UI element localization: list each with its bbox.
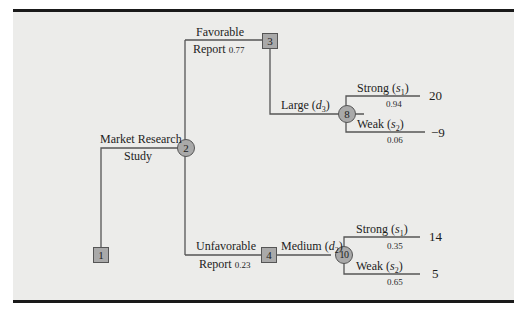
n10-weak-label: Weak (s2) — [356, 260, 403, 272]
favorable-label: Favorable — [196, 26, 244, 38]
n10-strong-payoff: 14 — [429, 230, 442, 243]
favorable-prob: 0.77 — [229, 45, 245, 55]
report-text: Report — [199, 257, 232, 271]
n8-strong-label: Strong (s1) — [357, 82, 409, 94]
n10-strong-prob: 0.35 — [387, 242, 403, 251]
decision-node-3: 3 — [262, 33, 278, 49]
n10-weak-prob: 0.65 — [387, 278, 403, 287]
n8-weak-payoff: −9 — [431, 126, 445, 139]
unfavorable-report-label: Report 0.23 — [199, 258, 250, 271]
medium-d2-label: Medium (d2) — [281, 240, 343, 252]
unfavorable-label: Unfavorable — [196, 240, 256, 252]
n8-weak-label: Weak (s2) — [357, 118, 404, 130]
decision-node-1: 1 — [93, 247, 109, 263]
n8-strong-prob: 0.94 — [386, 100, 402, 109]
n10-weak-payoff: 5 — [432, 267, 439, 280]
n8-weak-prob: 0.06 — [387, 136, 403, 145]
large-d3-label: Large (d3) — [281, 99, 330, 111]
study-label: Study — [124, 150, 152, 162]
report-text: Report — [193, 42, 226, 56]
chance-node-8: 8 — [338, 105, 356, 123]
n10-strong-label: Strong (s1) — [356, 223, 408, 235]
favorable-report-label: Report 0.77 — [193, 43, 244, 56]
market-research-label: Market Research — [100, 133, 182, 145]
decision-node-4: 4 — [261, 247, 277, 263]
unfavorable-prob: 0.23 — [235, 260, 251, 270]
n8-strong-payoff: 20 — [429, 89, 442, 102]
